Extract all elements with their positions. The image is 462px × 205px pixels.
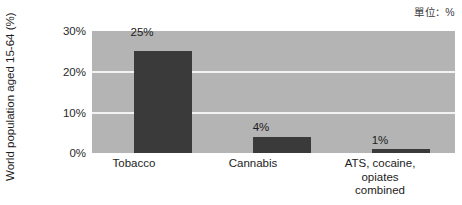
bar-cannabis bbox=[253, 137, 311, 153]
y-tick-label-10: 10% bbox=[42, 107, 86, 119]
x-label-ats-line-2: opiates bbox=[327, 171, 433, 185]
bar-chart: 單位：% World population aged 15-64 (%) 30%… bbox=[0, 0, 462, 205]
data-label-cannabis: 4% bbox=[223, 121, 299, 134]
unit-note: 單位：% bbox=[414, 4, 455, 19]
y-tick-label-30: 30% bbox=[42, 25, 86, 37]
x-label-ats-line-3: combined bbox=[327, 184, 433, 198]
x-label-cannabis-line-1: Cannabis bbox=[215, 157, 291, 171]
data-label-tobacco: 25% bbox=[104, 26, 180, 39]
x-label-ats-line-1: ATS, cocaine, bbox=[327, 157, 433, 171]
x-label-ats-cocaine-opiates: ATS, cocaine, opiates combined bbox=[327, 157, 433, 198]
x-label-tobacco: Tobacco bbox=[96, 157, 172, 171]
y-axis-title: World population aged 15-64 (%) bbox=[2, 21, 18, 181]
bar-ats-cocaine-opiates bbox=[372, 149, 430, 153]
y-tick-label-20: 20% bbox=[42, 66, 86, 78]
y-tick-label-0: 0% bbox=[42, 147, 86, 159]
bar-tobacco bbox=[134, 51, 192, 153]
y-axis-tick-labels: 30% 20% 10% 0% bbox=[34, 0, 86, 205]
x-label-tobacco-line-1: Tobacco bbox=[96, 157, 172, 171]
x-label-cannabis: Cannabis bbox=[215, 157, 291, 171]
data-label-ats-cocaine-opiates: 1% bbox=[342, 134, 418, 147]
